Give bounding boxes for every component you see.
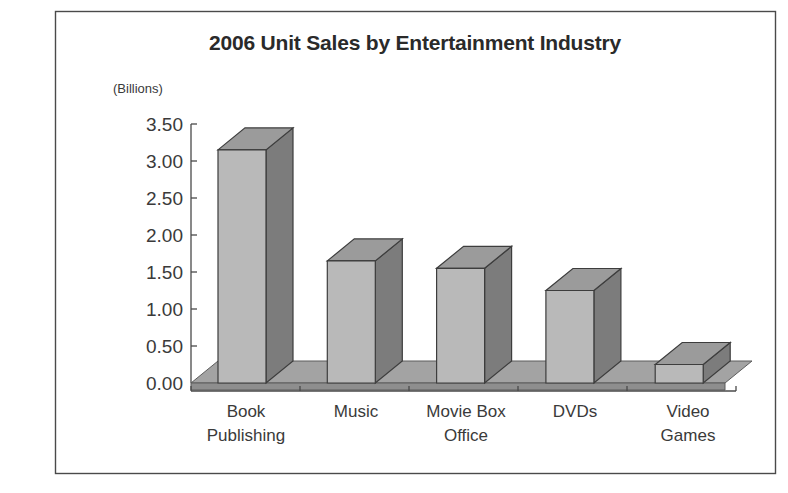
x-category-label-line1: Music xyxy=(334,402,379,421)
bar-dvds[interactable] xyxy=(546,269,621,384)
bar-music[interactable] xyxy=(327,239,402,383)
x-category-label-line2: Games xyxy=(661,426,716,445)
y-tick-label: 2.50 xyxy=(146,188,183,209)
y-axis-unit-label: (Billions) xyxy=(113,81,163,96)
y-tick-label: 0.50 xyxy=(146,336,183,357)
y-tick-label: 3.50 xyxy=(146,114,183,135)
y-tick-label: 1.50 xyxy=(146,262,183,283)
y-tick-label: 0.00 xyxy=(146,373,183,394)
entertainment-industry-bar-chart: 2006 Unit Sales by Entertainment Industr… xyxy=(0,0,788,493)
y-tick-label: 2.00 xyxy=(146,225,183,246)
floor-front-edge xyxy=(191,383,725,390)
bar-book-publishing[interactable] xyxy=(218,128,293,383)
y-tick-label: 1.00 xyxy=(146,299,183,320)
x-category-label-line2: Publishing xyxy=(207,426,285,445)
x-category-label-line1: Movie Box xyxy=(426,402,506,421)
x-category-label-line1: Book xyxy=(227,402,266,421)
bar-movie-box-office[interactable] xyxy=(437,246,512,383)
x-category-label-line1: Video xyxy=(666,402,709,421)
y-tick-label: 3.00 xyxy=(146,151,183,172)
x-category-label-line1: DVDs xyxy=(553,402,597,421)
chart-title: 2006 Unit Sales by Entertainment Industr… xyxy=(209,31,621,54)
x-category-label-line2: Office xyxy=(444,426,488,445)
